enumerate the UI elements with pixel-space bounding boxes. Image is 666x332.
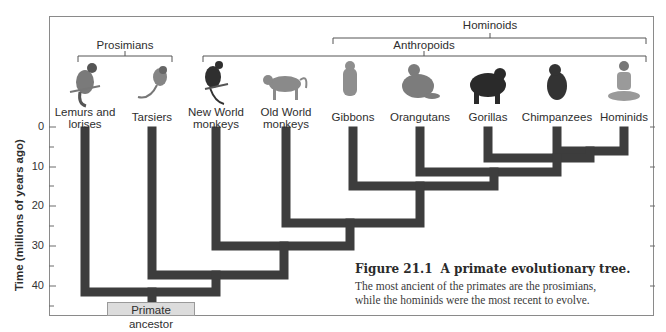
- hominid-icon: [608, 61, 640, 101]
- taxon-label-line: Lemurs and: [55, 106, 116, 118]
- orangutan-icon: [402, 64, 440, 99]
- taxon-label-lemurs: Lemurs and lorises: [55, 106, 116, 130]
- caption-body: The most ancient of the primates are the…: [355, 279, 655, 307]
- caption-line: The most ancient of the primates are the…: [355, 279, 655, 293]
- new-world-monkey-icon: [205, 61, 228, 104]
- caption-title: Figure 21.1A primate evolutionary tree.: [355, 262, 655, 276]
- taxon-label-old-world-monkeys: Old World monkeys: [261, 106, 312, 130]
- taxon-label-line: monkeys: [261, 118, 312, 130]
- group-label-prosimians: Prosimians: [97, 39, 154, 51]
- tick-label-30: 30: [24, 239, 44, 251]
- old-world-monkey-icon: [263, 75, 306, 100]
- chimpanzee-icon: [547, 64, 567, 100]
- figure-number: Figure 21.1: [355, 262, 433, 276]
- taxon-label-chimpanzees: Chimpanzees: [522, 111, 592, 123]
- group-label-hominoids: Hominoids: [463, 19, 517, 31]
- taxon-label-gibbons: Gibbons: [332, 111, 375, 123]
- tick-label-40: 40: [24, 279, 44, 291]
- taxon-label-line: lorises: [55, 118, 116, 130]
- tick-label-10: 10: [24, 160, 44, 172]
- taxon-label-line: Old World: [261, 106, 312, 118]
- caption-line: while the hominids were the most recent …: [355, 293, 655, 307]
- gibbon-icon: [343, 61, 357, 96]
- taxon-label-line: New World: [188, 106, 244, 118]
- figure-caption: Figure 21.1A primate evolutionary tree. …: [355, 262, 655, 307]
- taxon-label-line: monkeys: [188, 118, 244, 130]
- figure-title: A primate evolutionary tree.: [441, 262, 631, 276]
- taxon-label-hominids: Hominids: [600, 111, 648, 123]
- tarsier-icon: [138, 66, 167, 98]
- y-axis-title: Time (millions of years ago): [13, 141, 25, 291]
- taxon-label-tarsiers: Tarsiers: [132, 111, 172, 123]
- group-label-anthropoids: Anthropoids: [393, 39, 454, 51]
- tick-label-0: 0: [24, 120, 44, 132]
- tick-label-20: 20: [24, 199, 44, 211]
- group-brackets: [78, 33, 646, 62]
- lemur-icon: [70, 63, 100, 106]
- primate-ancestor-label: Primate ancestor: [107, 302, 195, 316]
- taxon-label-orangutans: Orangutans: [390, 111, 450, 123]
- taxon-label-new-world-monkeys: New World monkeys: [188, 106, 244, 130]
- taxon-label-gorillas: Gorillas: [469, 111, 508, 123]
- gorilla-icon: [470, 68, 506, 104]
